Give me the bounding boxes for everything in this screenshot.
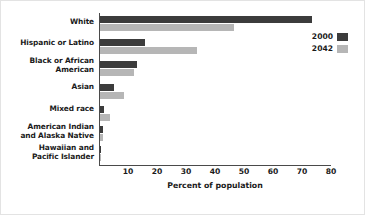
x-axis-ticks: 1020304050607080 <box>99 167 331 179</box>
legend-swatch <box>337 33 348 41</box>
category-label-line: Pacific Islander <box>1 153 94 162</box>
x-tick-label: 40 <box>210 167 221 176</box>
bar-2000 <box>100 106 104 113</box>
bar-2000 <box>100 16 312 23</box>
category-label-line: American <box>1 66 94 75</box>
chart-figure: White Hispanic or Latino Black or Africa… <box>0 0 365 215</box>
bar-2000 <box>100 126 103 133</box>
plot-area <box>99 13 331 166</box>
category-label-line: White <box>1 18 94 27</box>
legend-label: 2000 <box>312 32 333 41</box>
bar-2000 <box>100 84 114 91</box>
category-label-black-or-african-american: Black or African American <box>1 57 94 74</box>
bar-2042 <box>100 92 124 99</box>
bar-2000 <box>100 39 145 46</box>
x-tick-label: 30 <box>181 167 192 176</box>
category-label-line: Mixed race <box>1 105 94 114</box>
legend-swatch <box>337 45 348 53</box>
category-label-asian: Asian <box>1 83 94 92</box>
x-tick-label: 70 <box>297 167 308 176</box>
chart-legend: 20002042 <box>312 32 348 53</box>
category-label-hispanic-or-latino: Hispanic or Latino <box>1 39 94 48</box>
bar-2042 <box>100 154 101 161</box>
category-label-mixed-race: Mixed race <box>1 105 94 114</box>
x-tick-label: 80 <box>326 167 337 176</box>
legend-item-2042: 2042 <box>312 44 348 53</box>
category-axis-labels: White Hispanic or Latino Black or Africa… <box>1 13 94 166</box>
category-label-american-indian-and-alaska-native: American Indian and Alaska Native <box>1 123 94 140</box>
category-label-white: White <box>1 18 94 27</box>
bar-2000 <box>100 146 101 153</box>
bar-2042 <box>100 24 234 31</box>
bar-2042 <box>100 69 134 76</box>
x-tick-label: 60 <box>268 167 279 176</box>
category-label-line: Asian <box>1 83 94 92</box>
category-label-hawaiian-and-pacific-islander: Hawaiian and Pacific Islander <box>1 144 94 161</box>
legend-item-2000: 2000 <box>312 32 348 41</box>
x-tick-label: 50 <box>239 167 250 176</box>
x-tick-label: 10 <box>123 167 134 176</box>
x-tick-label: 20 <box>152 167 163 176</box>
x-axis-title: Percent of population <box>99 181 331 190</box>
bar-2000 <box>100 61 137 68</box>
bar-2042 <box>100 114 110 121</box>
legend-label: 2042 <box>312 44 333 53</box>
bar-2042 <box>100 134 103 141</box>
category-label-line: Hispanic or Latino <box>1 39 94 48</box>
bar-2042 <box>100 47 197 54</box>
category-label-line: and Alaska Native <box>1 132 94 141</box>
